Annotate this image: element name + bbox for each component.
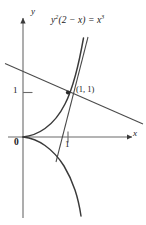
cissoid-curve: [23, 38, 84, 216]
x-tick-label-1: 1: [65, 140, 70, 149]
y-tick-label-1: 1: [13, 86, 18, 95]
equation-middle: (2 − x) =: [58, 15, 97, 25]
plot-canvas: [0, 0, 146, 225]
cissoid-upper-branch: [23, 38, 84, 137]
tangency-point-marker: [66, 90, 70, 94]
cissoid-lower-branch: [23, 137, 81, 216]
equation-rhs-exponent: 3: [101, 14, 104, 20]
origin-label: 0: [14, 138, 19, 148]
cissoid-tangent-figure: y2(2 − x) = x3 (1, 1) y x 0 1 1: [0, 0, 146, 225]
x-axis-label: x: [133, 129, 137, 138]
equation-label: y2(2 − x) = x3: [51, 16, 104, 26]
tangent-line: [56, 37, 88, 162]
y-axis-label: y: [31, 7, 35, 16]
axes-group: [8, 18, 132, 218]
point-label: (1, 1): [76, 85, 94, 94]
